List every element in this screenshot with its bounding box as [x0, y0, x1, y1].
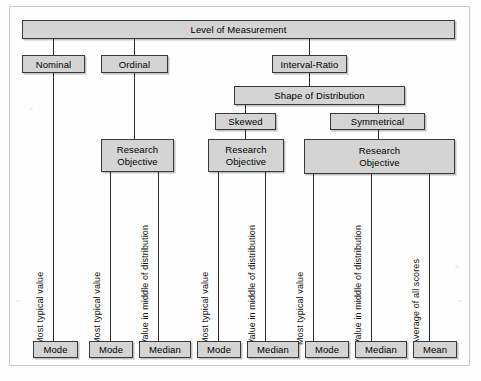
connector-shape-to-skewed: [245, 105, 246, 113]
descriptor-most-typical-value-symmetrical: Most typical value: [295, 272, 305, 345]
descriptor-most-typical-value-skewed: Most typical value: [200, 272, 210, 345]
node-interval-ratio[interactable]: Interval-Ratio: [272, 55, 347, 73]
descriptor-average-of-all-scores: Average of all scores: [411, 259, 421, 345]
connector-interval-to-shape: [309, 73, 310, 86]
node-label-line2: Objective: [117, 156, 158, 168]
node-label: Mode: [99, 344, 123, 355]
descriptor-most-typical-value-ordinal: Most typical value: [92, 272, 102, 345]
connector-ro1-to-mode: [110, 172, 111, 341]
node-label-line1: Research: [225, 144, 266, 156]
descriptor-most-typical-value-nominal: Most typical value: [35, 272, 45, 345]
node-research-objective-skewed[interactable]: Research Objective: [208, 139, 284, 172]
connector-symmetrical-stem: [378, 130, 379, 139]
node-nominal[interactable]: Nominal: [22, 55, 85, 73]
connector-nominal-stem: [53, 73, 54, 341]
connector-skewed-stem: [245, 130, 246, 139]
diagram-canvas: Level of Measurement Nominal Ordinal Int…: [0, 0, 481, 381]
node-skewed[interactable]: Skewed: [215, 113, 276, 130]
node-statistic-median-symmetrical[interactable]: Median: [355, 341, 407, 358]
node-label: Mean: [423, 344, 447, 355]
node-label: Shape of Distribution: [274, 90, 364, 101]
node-label-line2: Objective: [226, 156, 267, 168]
scan-speck: [458, 300, 463, 302]
node-label: Nominal: [36, 59, 72, 70]
node-label: Symmetrical: [351, 116, 404, 127]
node-shape-of-distribution[interactable]: Shape of Distribution: [234, 86, 405, 105]
node-label: Ordinal: [119, 59, 150, 70]
node-statistic-median-ordinal[interactable]: Median: [139, 341, 191, 358]
node-label: Skewed: [228, 116, 262, 127]
connector-ro2-to-median: [265, 172, 266, 341]
node-label: Interval-Ratio: [281, 59, 339, 70]
connector-shape-to-symmetrical: [378, 105, 379, 113]
connector-ro3-to-median: [371, 174, 372, 341]
connector-ro2-to-mode: [218, 172, 219, 341]
node-ordinal[interactable]: Ordinal: [101, 55, 168, 73]
descriptor-value-in-middle-skewed: Value in middle of distribution: [247, 225, 257, 345]
node-label-line1: Research: [117, 144, 158, 156]
node-statistic-mode-nominal[interactable]: Mode: [33, 341, 78, 358]
descriptor-value-in-middle-ordinal: Value in middle of distribution: [140, 225, 150, 345]
node-level-of-measurement[interactable]: Level of Measurement: [22, 20, 455, 39]
connector-root-to-interval-ratio: [309, 39, 310, 55]
node-statistic-mode-skewed[interactable]: Mode: [197, 341, 241, 358]
node-label: Level of Measurement: [191, 24, 287, 35]
node-label: Median: [149, 344, 181, 355]
node-label-line1: Research: [359, 145, 400, 157]
node-label: Mode: [315, 344, 339, 355]
node-statistic-median-skewed[interactable]: Median: [247, 341, 299, 358]
connector-ordinal-stem: [134, 73, 135, 139]
node-label: Mode: [43, 344, 67, 355]
descriptor-value-in-middle-symmetrical: Value in middle of distribution: [353, 225, 363, 345]
node-research-objective-symmetrical[interactable]: Research Objective: [304, 139, 455, 174]
node-statistic-mode-ordinal[interactable]: Mode: [89, 341, 133, 358]
node-symmetrical[interactable]: Symmetrical: [330, 113, 425, 130]
node-research-objective-ordinal[interactable]: Research Objective: [101, 139, 174, 172]
scan-speck: [455, 265, 459, 268]
connector-root-to-ordinal: [134, 39, 135, 55]
node-statistic-mean-symmetrical[interactable]: Mean: [413, 341, 457, 358]
connector-ro1-to-median: [158, 172, 159, 341]
connector-ro3-to-mean: [429, 174, 430, 341]
node-label: Median: [257, 344, 289, 355]
connector-ro3-to-mode: [313, 174, 314, 341]
scan-speck: [16, 300, 20, 302]
connector-root-to-nominal: [53, 39, 54, 55]
node-label: Mode: [207, 344, 231, 355]
scan-speck: [30, 108, 33, 110]
node-label: Median: [365, 344, 397, 355]
node-label-line2: Objective: [359, 157, 400, 169]
node-statistic-mode-symmetrical[interactable]: Mode: [305, 341, 349, 358]
